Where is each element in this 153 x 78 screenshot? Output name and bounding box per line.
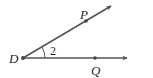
angle-arc	[42, 47, 45, 58]
angle-diagram: D P Q 2	[0, 0, 153, 78]
point-q	[93, 56, 97, 60]
vertex-point-d	[21, 56, 25, 60]
vertex-label-d: D	[9, 52, 18, 65]
angle-label: 2	[50, 45, 56, 58]
point-label-q: Q	[91, 64, 100, 77]
point-label-p: P	[80, 8, 88, 21]
angle-figure	[0, 0, 153, 78]
ray-dp	[23, 6, 111, 58]
